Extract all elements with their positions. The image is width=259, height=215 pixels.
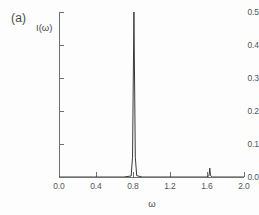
x-axis-title: ω bbox=[137, 198, 167, 209]
x-tick-label: 0.0 bbox=[44, 181, 74, 191]
x-tick bbox=[244, 172, 245, 177]
x-tick-label: 0.8 bbox=[118, 181, 148, 191]
x-tick-label: 1.6 bbox=[192, 181, 222, 191]
y-tick bbox=[60, 177, 64, 178]
spectrum-curve bbox=[59, 12, 244, 177]
y-axis-title: I(ω) bbox=[36, 22, 52, 33]
figure-panel-a: (a) I(ω) ω 0.00.10.20.30.40.5 0.00.40.81… bbox=[0, 0, 259, 215]
panel-label: (a) bbox=[11, 11, 26, 25]
x-tick-label: 1.2 bbox=[155, 181, 185, 191]
x-tick-label: 0.4 bbox=[81, 181, 111, 191]
plot-area bbox=[59, 12, 244, 177]
x-tick-label: 2.0 bbox=[229, 181, 259, 191]
